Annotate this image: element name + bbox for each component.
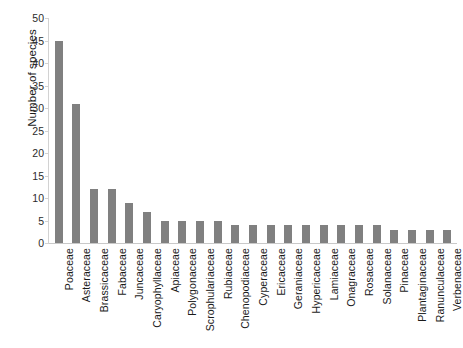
x-axis-label-slot: Caryophyllaceae — [138, 248, 156, 344]
x-axis-label-slot: Plantaginaceae — [403, 248, 421, 344]
x-axis-label-slot: Asteraceae — [68, 248, 86, 344]
x-axis-label-slot: Polygonaceae — [174, 248, 192, 344]
bar[interactable] — [302, 225, 310, 243]
bar-slot — [244, 18, 262, 243]
y-axis-tick-label: 50 — [0, 12, 44, 24]
bar[interactable] — [125, 203, 133, 244]
bar-slot — [227, 18, 245, 243]
bar-slot — [421, 18, 439, 243]
bar[interactable] — [373, 225, 381, 243]
bar[interactable] — [355, 225, 363, 243]
bar-slot — [368, 18, 386, 243]
bar[interactable] — [320, 225, 328, 243]
bar-slot — [438, 18, 456, 243]
bar[interactable] — [337, 225, 345, 243]
bar[interactable] — [284, 225, 292, 243]
bar[interactable] — [426, 230, 434, 244]
bar-slot — [385, 18, 403, 243]
bar[interactable] — [90, 189, 98, 243]
bar[interactable] — [143, 212, 151, 244]
x-axis-label-slot: Poaceae — [50, 248, 68, 344]
x-axis-label-slot: Geraniaceae — [279, 248, 297, 344]
x-axis-label-slot: Lamiaceae — [315, 248, 333, 344]
bar[interactable] — [443, 230, 451, 244]
y-axis-tick-label: 35 — [0, 80, 44, 92]
y-axis-tick-label: 20 — [0, 147, 44, 159]
bar-slot — [209, 18, 227, 243]
y-axis-tick-label: 5 — [0, 215, 44, 227]
x-axis-label-slot: Fabaceae — [103, 248, 121, 344]
bar[interactable] — [55, 41, 63, 244]
bar-slot — [191, 18, 209, 243]
bar-slot — [68, 18, 86, 243]
bar-slot — [50, 18, 68, 243]
bar-slot — [332, 18, 350, 243]
y-axis-tick-label: 45 — [0, 35, 44, 47]
bar-slot — [156, 18, 174, 243]
bar[interactable] — [178, 221, 186, 244]
bar[interactable] — [249, 225, 257, 243]
x-axis-label-slot: Juncaceae — [121, 248, 139, 344]
x-axis-label-slot: Cyperaceae — [244, 248, 262, 344]
x-axis-label-slot: Chenopodiaceae — [227, 248, 245, 344]
bar[interactable] — [108, 189, 116, 243]
bar-slot — [350, 18, 368, 243]
y-axis-tick-label: 10 — [0, 192, 44, 204]
bar-slot — [103, 18, 121, 243]
x-axis-label-slot: Hypericaceae — [297, 248, 315, 344]
x-axis-label-slot: Rubiaceae — [209, 248, 227, 344]
y-axis-tick-mark — [45, 243, 49, 244]
x-axis-label-slot: Brassicaceae — [85, 248, 103, 344]
x-axis-label-slot: Apiaceae — [156, 248, 174, 344]
y-axis-tick-label: 0 — [0, 237, 44, 249]
y-axis-tick-label: 30 — [0, 102, 44, 114]
x-axis-label-slot: Scrophulariaceae — [191, 248, 209, 344]
bar-slot — [138, 18, 156, 243]
bar-slot — [121, 18, 139, 243]
x-axis-label-slot: Ranunculaceae — [421, 248, 439, 344]
bar-slot — [174, 18, 192, 243]
plot-area — [48, 18, 456, 243]
x-axis-label-slot: Solanaceae — [368, 248, 386, 344]
bar-slot — [85, 18, 103, 243]
bar[interactable] — [72, 104, 80, 244]
bar-slot — [262, 18, 280, 243]
x-axis-label-slot: Pinaceae — [385, 248, 403, 344]
x-axis-tick-label: Verbenaceae — [451, 248, 463, 311]
y-axis-tick-label: 25 — [0, 125, 44, 137]
bar[interactable] — [408, 230, 416, 244]
bar-slot — [297, 18, 315, 243]
bar-slot — [279, 18, 297, 243]
bar[interactable] — [196, 221, 204, 244]
x-axis-label-slot: Verbenaceae — [438, 248, 456, 344]
x-axis-label-slot: Ericaceae — [262, 248, 280, 344]
bar-slot — [315, 18, 333, 243]
x-axis-line — [48, 243, 457, 244]
bar[interactable] — [161, 221, 169, 244]
bar[interactable] — [390, 230, 398, 244]
y-axis-tick-label: 40 — [0, 57, 44, 69]
y-axis-tick-label: 15 — [0, 170, 44, 182]
bar[interactable] — [214, 221, 222, 244]
x-axis-label-slot: Onagraceae — [332, 248, 350, 344]
bar[interactable] — [267, 225, 275, 243]
bar[interactable] — [231, 225, 239, 243]
x-axis-label-slot: Rosaceae — [350, 248, 368, 344]
bar-slot — [403, 18, 421, 243]
